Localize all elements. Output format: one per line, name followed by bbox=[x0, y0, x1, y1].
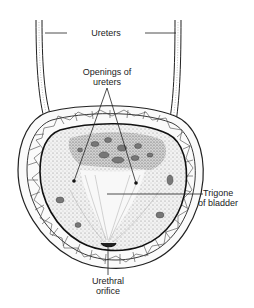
bladder-diagram: Ureters Openings of ureters Trigone of b… bbox=[0, 0, 254, 308]
label-openings-of-ureters: Openings of ureters bbox=[70, 67, 144, 87]
label-ureters: Ureters bbox=[68, 28, 144, 38]
label-openings-line2: ureters bbox=[70, 77, 144, 87]
label-urethral-orifice: Urethral orifice bbox=[80, 276, 136, 296]
label-openings-line1: Openings of bbox=[70, 67, 144, 77]
label-urethral-line2: orifice bbox=[80, 286, 136, 296]
label-trigone-line2: of bladder bbox=[198, 198, 238, 208]
label-urethral-line1: Urethral bbox=[80, 276, 136, 286]
mucosal-rugae bbox=[69, 132, 166, 170]
bladder-illustration bbox=[0, 0, 254, 308]
label-trigone-of-bladder: Trigone of bladder bbox=[198, 188, 238, 208]
label-trigone-line1: Trigone bbox=[198, 188, 238, 198]
right-ureter bbox=[170, 20, 181, 122]
left-ureter bbox=[36, 20, 50, 118]
